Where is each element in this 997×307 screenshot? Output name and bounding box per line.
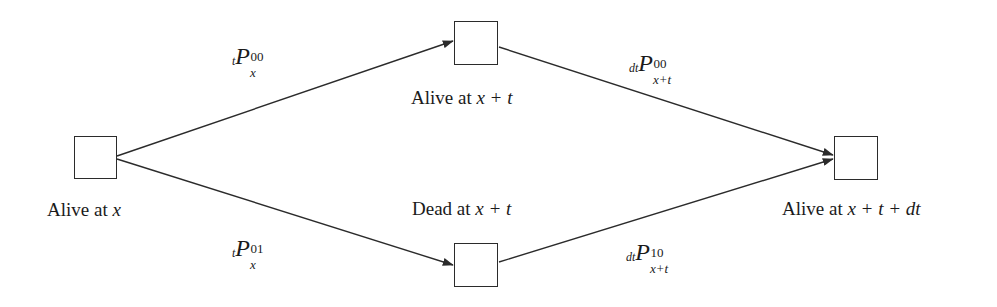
edge-label-alive-x-to-dead-xt: tP01x (232, 236, 250, 260)
edge-label-subscript: x (250, 258, 256, 271)
edge-label-base: P (235, 235, 250, 261)
edge-label-base: P (235, 43, 250, 69)
caption-alive-at-x-prefix: Alive at (47, 199, 112, 220)
edge-label-superscript: 01 (251, 242, 264, 255)
edge-alive-x-to-alive-xt (117, 41, 453, 156)
caption-alive-at-x-plus-t: Alive at x + t (411, 88, 512, 107)
state-box-alive-at-x[interactable] (74, 136, 117, 179)
edge-label-alive-xt-to-alive-xtdt: dtP00x+t (629, 51, 653, 75)
edge-label-subscript: x+t (650, 262, 668, 275)
caption-dead-at-x-plus-t-var: x + t (475, 198, 511, 219)
edge-label-subscript: x+t (653, 73, 671, 86)
state-box-dead-at-x-plus-t[interactable] (454, 243, 498, 287)
edge-label-superscript: 00 (654, 57, 667, 70)
edge-label-superscript: 10 (651, 246, 664, 259)
caption-alive-at-x-plus-t-plus-dt: Alive at x + t + dt (782, 199, 921, 218)
caption-alive-at-x-plus-t-plus-dt-var: x + t + dt (847, 198, 920, 219)
edge-alive-x-to-dead-xt (117, 159, 453, 265)
edge-label-dead-xt-to-alive-xtdt: dtP10x+t (626, 240, 650, 264)
caption-alive-at-x-plus-t-prefix: Alive at (411, 87, 476, 108)
caption-alive-at-x-plus-t-plus-dt-prefix: Alive at (782, 198, 847, 219)
caption-alive-at-x-plus-t-var: x + t (476, 87, 512, 108)
edge-label-subscript: x (250, 66, 256, 79)
caption-alive-at-x: Alive at x (47, 200, 121, 219)
edge-label-presub: dt (629, 61, 638, 75)
caption-dead-at-x-plus-t-prefix: Dead at (412, 198, 475, 219)
caption-alive-at-x-var: x (112, 199, 120, 220)
state-box-alive-at-x-plus-t[interactable] (454, 21, 498, 65)
caption-dead-at-x-plus-t: Dead at x + t (412, 199, 511, 218)
transition-diagram: Alive at x Alive at x + t Dead at x + t … (0, 0, 997, 307)
edge-label-base: P (638, 50, 653, 76)
edge-label-superscript: 00 (251, 50, 264, 63)
edge-label-base: P (635, 239, 650, 265)
edge-label-alive-x-to-alive-xt: tP00x (232, 44, 250, 68)
state-box-alive-at-x-plus-t-plus-dt[interactable] (834, 136, 878, 180)
edge-label-presub: dt (626, 250, 635, 264)
